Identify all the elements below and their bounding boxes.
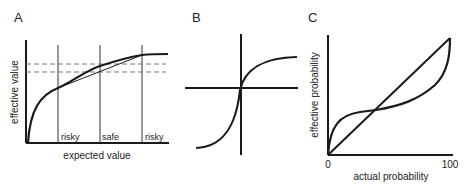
- panel-c-x-label: actual probability: [353, 171, 428, 182]
- panel-a-letter: A: [14, 10, 23, 25]
- panel-b-s-curve: [196, 57, 297, 148]
- panel-a: A risky safe risky expected value effect…: [9, 10, 169, 161]
- figure: A risky safe risky expected value effect…: [0, 0, 466, 190]
- panel-b: B: [185, 10, 298, 155]
- panel-a-safe-label: safe: [102, 132, 119, 142]
- panel-c-x-tick-100: 100: [442, 159, 459, 170]
- panel-a-y-label: effective value: [9, 60, 20, 124]
- panel-a-x-label: expected value: [63, 150, 131, 161]
- panel-c-y-label: effective probability: [309, 52, 320, 137]
- panel-b-letter: B: [192, 10, 201, 25]
- panel-a-risky-left-label: risky: [61, 132, 80, 142]
- panel-c: C 0 100 actual probability effective pro…: [308, 10, 459, 182]
- panel-c-letter: C: [308, 10, 317, 25]
- panel-a-risky-right-label: risky: [145, 132, 164, 142]
- panel-a-concave-curve: [28, 54, 168, 143]
- panel-c-identity-line: [328, 38, 450, 155]
- panel-c-x-tick-0: 0: [325, 159, 331, 170]
